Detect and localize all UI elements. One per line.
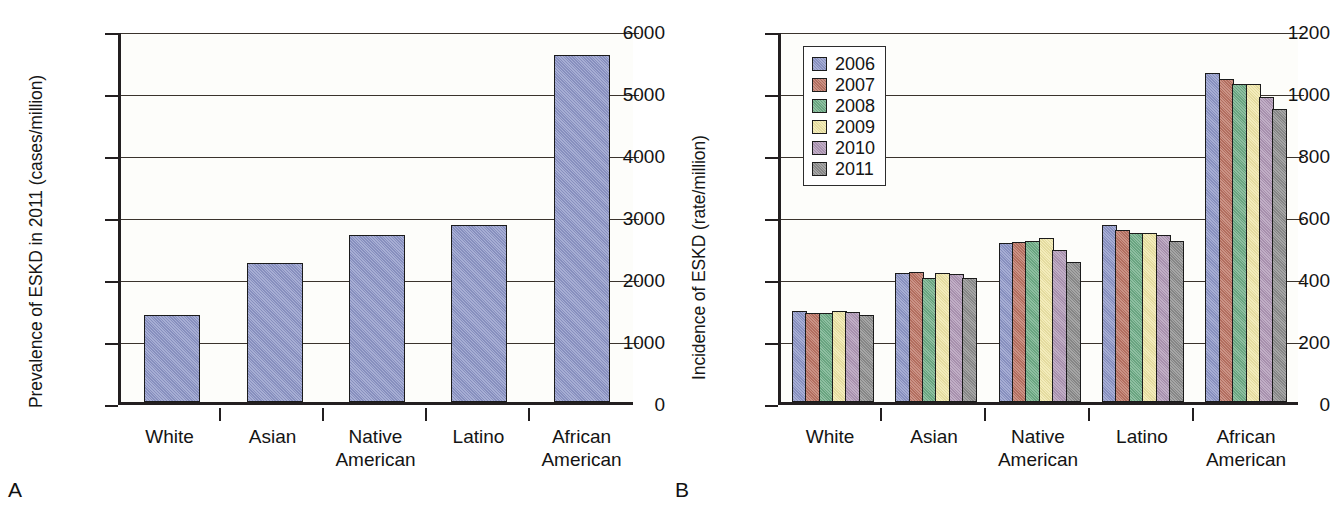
bar-group	[884, 33, 987, 402]
x-tick-label-line: African	[1194, 425, 1298, 448]
x-tick-label: NativeAmerican	[986, 425, 1090, 471]
x-tick-label-line: American	[324, 448, 427, 471]
y-tick-mark	[765, 281, 778, 283]
x-tick-label-line: American	[986, 448, 1090, 471]
legend-label-2008: 2008	[835, 97, 875, 115]
x-tick-label-line: Native	[324, 425, 427, 448]
x-tick-label: Latino	[427, 425, 530, 471]
bar-2011	[1066, 262, 1081, 402]
y-tick-label: 6000	[569, 22, 665, 44]
bar	[247, 263, 303, 403]
x-tick-label-line: Asian	[882, 425, 986, 448]
bar-group	[1091, 33, 1194, 402]
y-tick-label: 1200	[1239, 22, 1330, 44]
x-tick-label: White	[118, 425, 221, 471]
y-tick-label: 2000	[569, 270, 665, 292]
x-tick-mark	[882, 408, 986, 421]
x-tick-label-line: White	[778, 425, 882, 448]
legend-swatch-2007	[812, 78, 827, 92]
x-tick-mark	[778, 408, 882, 421]
legend-swatch-2006	[812, 57, 827, 71]
figure-two-panel-bar-charts: Prevalence of ESKD in 2011 (cases/millio…	[0, 0, 1331, 522]
y-tick-mark	[105, 95, 118, 97]
x-tick-label: Asian	[882, 425, 986, 471]
y-tick-label: 600	[1239, 208, 1330, 230]
panel-a-bars	[121, 33, 633, 402]
y-tick-mark	[765, 405, 778, 407]
bar-group	[326, 33, 428, 402]
panel-a-plot-area	[118, 33, 633, 405]
legend-label-2011: 2011	[835, 160, 874, 178]
x-tick-label: Latino	[1090, 425, 1194, 471]
legend-swatch-2011	[812, 162, 827, 176]
y-tick-mark	[105, 281, 118, 283]
y-tick-mark	[765, 219, 778, 221]
x-tick-label-line: Latino	[1090, 425, 1194, 448]
y-tick-label: 800	[1239, 146, 1330, 168]
x-tick-label-line: American	[530, 448, 633, 471]
y-tick-label: 3000	[569, 208, 665, 230]
x-tick-label-line: African	[530, 425, 633, 448]
legend-item-2008: 2008	[812, 95, 875, 116]
x-tick-label: AfricanAmerican	[1194, 425, 1298, 471]
bar-2011	[859, 315, 874, 402]
x-tick-label-line: Native	[986, 425, 1090, 448]
x-tick-label: AfricanAmerican	[530, 425, 633, 471]
legend-item-2011: 2011	[812, 158, 875, 179]
x-tick-label: NativeAmerican	[324, 425, 427, 471]
panel-b-y-axis-label: Incidence of ESKD (rate/million)	[689, 135, 710, 380]
bar-2011	[962, 278, 977, 402]
x-tick-label: White	[778, 425, 882, 471]
bar	[349, 235, 405, 402]
y-tick-mark	[105, 405, 118, 407]
x-tick-mark	[427, 408, 530, 421]
panel-a: Prevalence of ESKD in 2011 (cases/millio…	[0, 0, 665, 522]
panel-b-x-tick-marks	[778, 408, 1298, 421]
panel-b-letter: B	[675, 478, 689, 502]
x-tick-mark	[986, 408, 1090, 421]
y-tick-label: 1000	[569, 332, 665, 354]
y-tick-mark	[765, 95, 778, 97]
x-tick-mark	[1090, 408, 1194, 421]
x-tick-label-line: Asian	[221, 425, 324, 448]
legend-label-2006: 2006	[835, 55, 875, 73]
bar	[144, 315, 200, 402]
legend-label-2010: 2010	[835, 139, 875, 157]
legend-swatch-2010	[812, 141, 827, 155]
legend-item-2009: 2009	[812, 116, 875, 137]
y-tick-label: 200	[1239, 332, 1330, 354]
panel-b-plot-area: 200620072008200920102011	[778, 33, 1298, 405]
x-tick-label-line: American	[1194, 448, 1298, 471]
legend-swatch-2008	[812, 99, 827, 113]
bar-2011	[1169, 241, 1184, 402]
legend-label-2007: 2007	[835, 76, 875, 94]
y-tick-mark	[765, 343, 778, 345]
bar-group	[121, 33, 223, 402]
legend-item-2010: 2010	[812, 137, 875, 158]
bar-group	[428, 33, 530, 402]
legend-label-2009: 2009	[835, 118, 875, 136]
legend-item-2007: 2007	[812, 74, 875, 95]
x-tick-mark	[1194, 408, 1298, 421]
y-tick-mark	[105, 157, 118, 159]
legend-item-2006: 2006	[812, 53, 875, 74]
x-tick-mark	[324, 408, 427, 421]
panel-a-letter: A	[8, 478, 22, 502]
y-tick-mark	[765, 33, 778, 35]
bar-group	[223, 33, 325, 402]
y-tick-mark	[105, 219, 118, 221]
y-tick-label: 400	[1239, 270, 1330, 292]
x-tick-label-line: White	[118, 425, 221, 448]
x-tick-label-line: Latino	[427, 425, 530, 448]
panel-b-x-tick-labels: WhiteAsianNativeAmericanLatinoAfricanAme…	[778, 425, 1298, 471]
x-tick-mark	[530, 408, 633, 421]
x-tick-mark	[221, 408, 324, 421]
legend-swatch-2009	[812, 120, 827, 134]
y-tick-label: 5000	[569, 84, 665, 106]
bar-group	[988, 33, 1091, 402]
bar	[451, 225, 507, 402]
x-tick-label: Asian	[221, 425, 324, 471]
panel-a-x-tick-marks	[118, 408, 633, 421]
y-tick-label: 4000	[569, 146, 665, 168]
panel-a-y-axis-label: Prevalence of ESKD in 2011 (cases/millio…	[26, 75, 47, 408]
